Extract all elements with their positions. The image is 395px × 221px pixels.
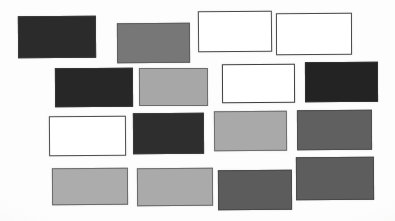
patch-rect [276, 13, 352, 55]
patch-rect [305, 62, 378, 102]
patch-chart-canvas [0, 0, 395, 221]
patch-rect [49, 116, 126, 157]
patch-rect [133, 113, 204, 154]
patch-rect [296, 157, 374, 200]
patch-rect [198, 11, 272, 53]
patch-rect [55, 68, 133, 107]
patch-rect [297, 110, 372, 150]
patch-rect [52, 168, 128, 205]
patch-rect [18, 16, 96, 59]
patch-rect [214, 111, 287, 151]
patch-rect [117, 23, 190, 63]
patch-rect [139, 68, 208, 106]
patch-rect [137, 168, 213, 206]
patch-rect [222, 64, 295, 103]
patch-rect [218, 170, 292, 210]
